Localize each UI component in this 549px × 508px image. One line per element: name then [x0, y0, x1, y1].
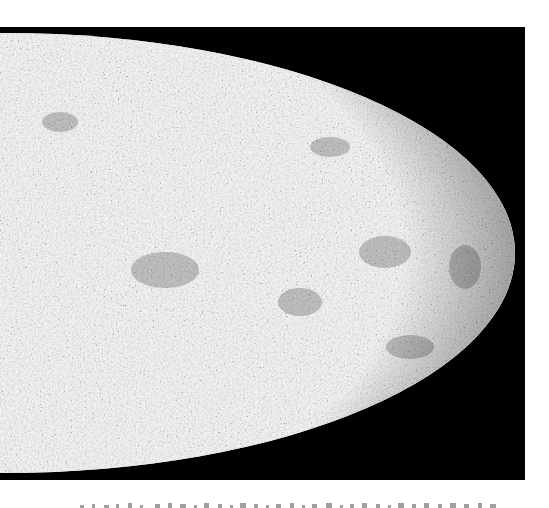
sky-map-image — [0, 27, 525, 480]
figure-caption-cutoff — [80, 500, 506, 508]
figure-frame — [0, 27, 525, 480]
